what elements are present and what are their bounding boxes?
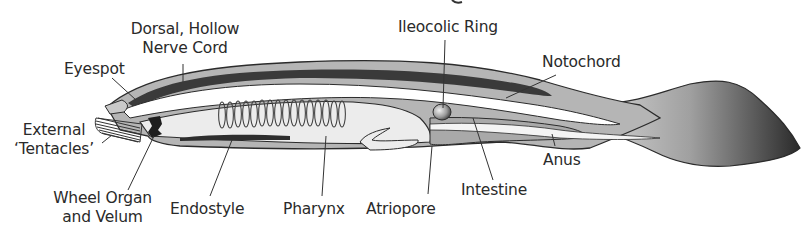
label-external-tentacles: External ‘Tentacles’	[14, 121, 94, 159]
title-fragment	[452, 0, 462, 3]
label-line: Nerve Cord	[130, 39, 240, 58]
label-line: External	[14, 121, 94, 140]
snout	[105, 100, 128, 114]
label-line: ‘Tentacles’	[14, 140, 94, 159]
label-ileocolic-ring: Ileocolic Ring	[398, 18, 498, 37]
lancelet-diagram: Dorsal, Hollow Nerve Cord Eyespot Extern…	[0, 0, 809, 229]
label-pharynx: Pharynx	[283, 200, 345, 219]
label-wheel-organ: Wheel Organ and Velum	[50, 189, 155, 227]
label-line: Dorsal, Hollow	[130, 20, 240, 39]
label-notochord: Notochord	[542, 53, 621, 72]
label-dorsal-nerve-cord: Dorsal, Hollow Nerve Cord	[130, 20, 240, 58]
label-eyespot: Eyespot	[64, 60, 125, 79]
ileocolic-ring	[433, 104, 451, 120]
label-anus: Anus	[543, 151, 581, 170]
label-endostyle: Endostyle	[170, 200, 244, 219]
label-line: and Velum	[50, 208, 155, 227]
label-intestine: Intestine	[461, 181, 527, 200]
label-line: Wheel Organ	[50, 189, 155, 208]
label-atriopore: Atriopore	[366, 200, 436, 219]
